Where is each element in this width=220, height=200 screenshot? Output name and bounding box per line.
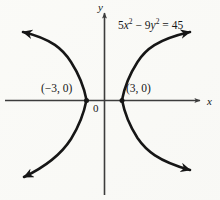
vertex-point-right (120, 98, 125, 103)
left-vertex-label: (−3, 0) (41, 83, 72, 95)
hyperbola-left-branch-lower (24, 100, 87, 177)
x-axis-label: x (207, 96, 212, 107)
origin-label: 0 (93, 103, 99, 114)
equation-a-exp: 2 (129, 17, 133, 26)
right-vertex-label: (3, 0) (126, 83, 151, 95)
vertex-point-left (84, 98, 89, 103)
equation-label: 5x2 − 9y2 = 45 (118, 18, 183, 31)
graph-canvas (0, 0, 220, 200)
equation-equals-sign: = (162, 19, 169, 31)
equation-minus-sign: − (135, 19, 142, 31)
y-axis-label: y (98, 2, 103, 13)
equation-b-exp: 2 (156, 17, 160, 26)
hyperbola-right-branch-lower (122, 100, 190, 170)
equation-rhs: 45 (172, 19, 184, 31)
hyperbola-figure: 5x2 − 9y2 = 45 x y 0 (−3, 0) (3, 0) (0, 0, 220, 200)
